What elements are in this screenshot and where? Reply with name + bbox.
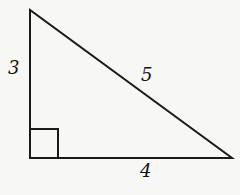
triangle-diagram <box>0 0 240 195</box>
vertical-leg-label: 3 <box>8 59 19 77</box>
right-triangle <box>30 10 232 158</box>
hypotenuse-label: 5 <box>141 66 152 84</box>
horizontal-leg-label: 4 <box>140 162 151 180</box>
right-angle-marker <box>30 129 58 158</box>
